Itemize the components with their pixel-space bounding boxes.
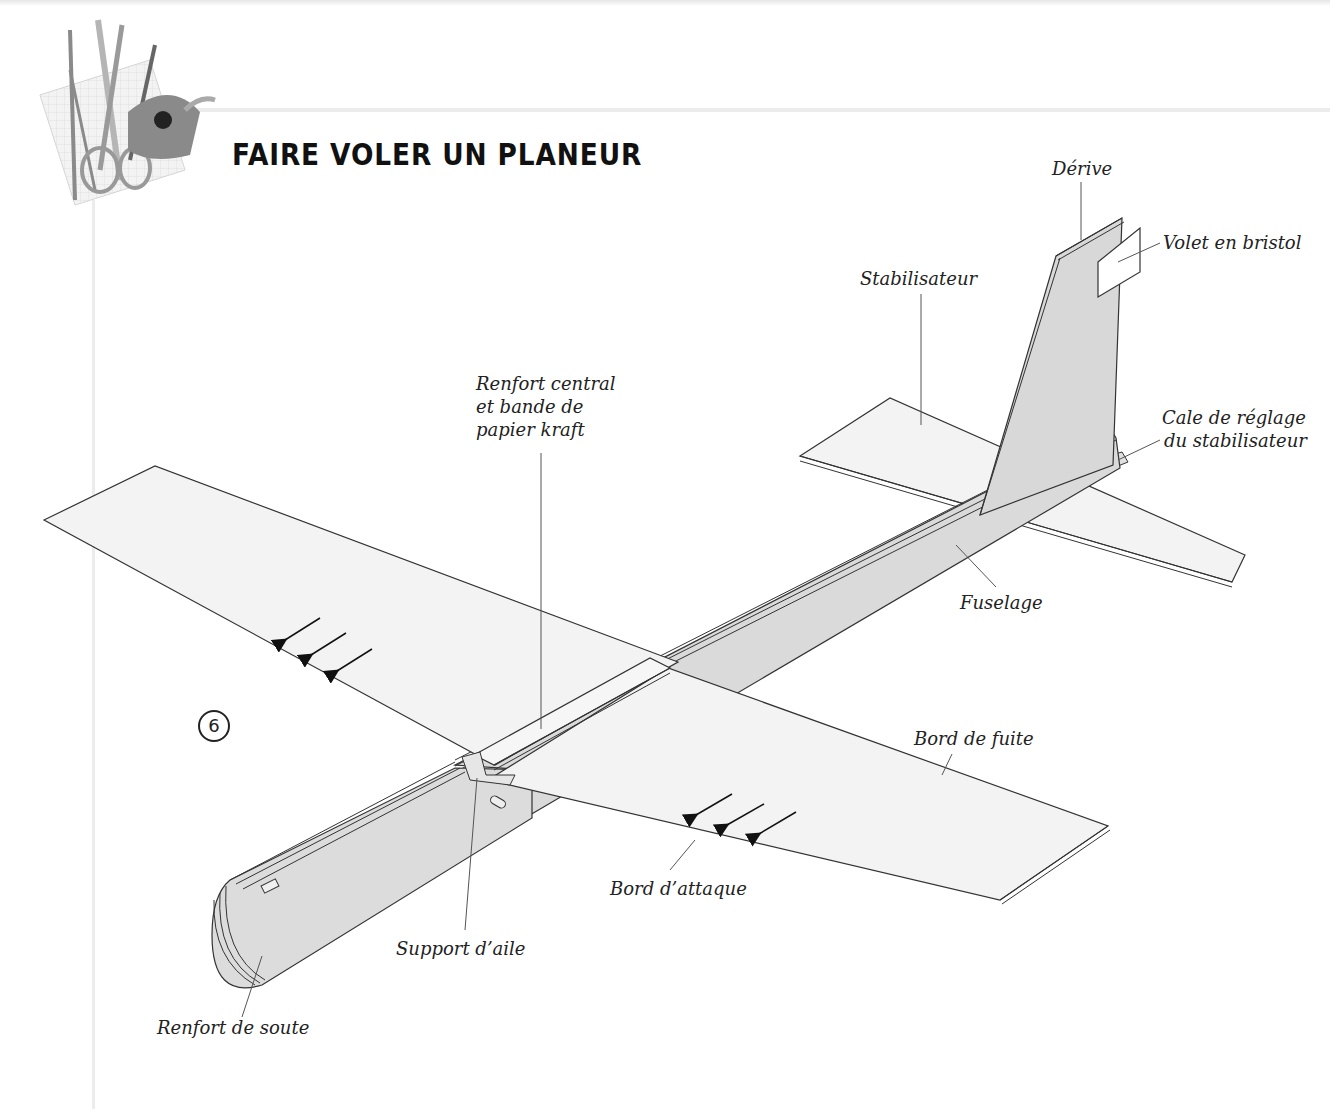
label-bord-attaque: Bord d’attaque [610,878,747,900]
label-volet-bristol: Volet en bristol [1163,232,1301,254]
label-renfort-central-line1: Renfort central [476,373,616,395]
page-title: FAIRE VOLER UN PLANEUR [232,137,642,172]
label-bord-de-fuite: Bord de fuite [914,728,1034,750]
drafting-tools-icon [40,20,215,205]
label-fuselage: Fuselage [960,592,1043,614]
label-renfort-central-line2: et bande de [476,396,584,418]
label-renfort-central-line3: papier kraft [476,419,585,441]
step-number-badge: 6 [198,710,230,742]
label-support-aile: Support d’aile [396,938,526,960]
label-cale-line1: Cale de réglage [1162,407,1306,429]
glider-diagram [0,0,1330,1109]
label-cale-line2: du stabilisateur [1164,430,1307,452]
page: FAIRE VOLER UN PLANEUR 6 Dérive Volet en… [0,0,1330,1109]
label-derive: Dérive [1052,158,1112,180]
label-stabilisateur: Stabilisateur [860,268,977,290]
label-renfort-soute: Renfort de soute [157,1017,309,1039]
